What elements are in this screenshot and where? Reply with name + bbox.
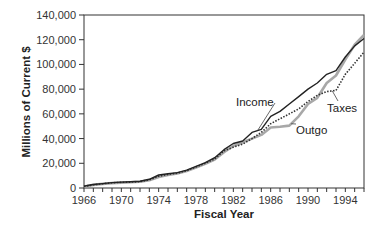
annotation-taxes: Taxes <box>327 102 357 114</box>
annotation-outgo: Outgo <box>296 124 327 136</box>
leader-line-taxes <box>332 91 338 101</box>
x-tick-label: 1982 <box>221 194 245 206</box>
x-tick-label: 1974 <box>146 194 170 206</box>
x-axis-title: Fiscal Year <box>194 208 254 220</box>
y-tick-label: 20,000 <box>42 157 76 169</box>
series-line-income <box>84 39 364 187</box>
x-axis: 19661970197419781982198619901994 <box>72 188 364 206</box>
series-line-outgo <box>84 35 364 187</box>
chart: 020,00040,00060,00080,000100,000120,0001… <box>0 0 380 233</box>
series-layer <box>84 35 364 187</box>
plot-frame <box>84 15 364 188</box>
series-line-taxes <box>84 52 364 186</box>
x-tick-label: 1966 <box>72 194 96 206</box>
x-tick-label: 1978 <box>184 194 208 206</box>
y-axis-title: Millions of Current $ <box>20 46 32 158</box>
x-tick-label: 1970 <box>109 194 133 206</box>
y-tick-label: 140,000 <box>36 9 76 21</box>
annotation-income: Income <box>236 96 274 108</box>
x-tick-label: 1990 <box>296 194 320 206</box>
y-tick-label: 60,000 <box>42 108 76 120</box>
y-tick-label: 120,000 <box>36 34 76 46</box>
y-axis: 020,00040,00060,00080,000100,000120,0001… <box>36 9 84 194</box>
y-tick-label: 100,000 <box>36 58 76 70</box>
x-tick-label: 1986 <box>258 194 282 206</box>
y-tick-label: 40,000 <box>42 133 76 145</box>
y-tick-label: 80,000 <box>42 83 76 95</box>
y-tick-label: 0 <box>70 182 76 194</box>
x-tick-label: 1994 <box>333 194 357 206</box>
